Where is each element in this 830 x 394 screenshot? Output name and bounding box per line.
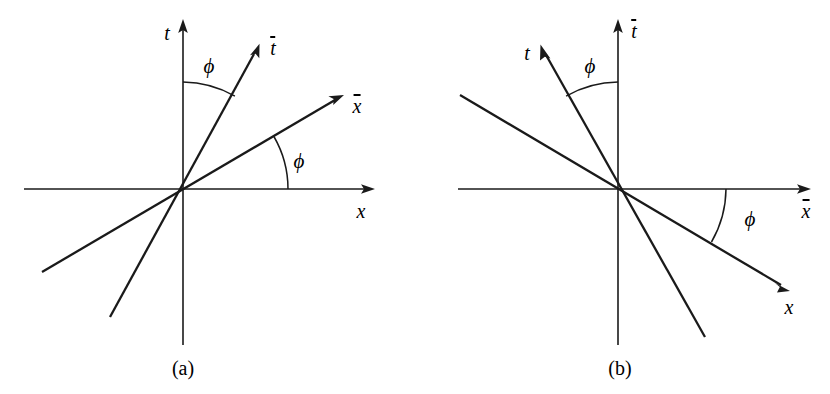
panel-b-caption: (b) [608,358,631,378]
panel-b-lower-angle-arc [712,189,727,242]
panel-a-t-bar-axis-label: t [270,38,276,58]
panel-b-x-bar-axis-label-text: x [802,200,811,222]
panel-a-lower-angle-label: ϕ [294,151,305,172]
figure-root: t x t x ϕ ϕ (a) t x t x ϕ ϕ (b) [0,0,830,394]
panel-a-t-axis-label: t [164,23,170,43]
panel-b-t-line [546,55,705,337]
panel-a-x-bar-axis-label: x [353,96,362,116]
panel-b-upper-angle-label: ϕ [585,56,596,77]
panel-a-t-bar-axis-label-text: t [270,37,276,59]
panel-a-t-bar-arrowhead [250,44,260,58]
panel-b-t-bar-axis-label: t [631,21,637,41]
diagram-canvas [0,0,830,394]
panel-b-x-bar-axis-label: x [802,201,811,221]
panel-b-x-arrowhead [775,283,790,293]
panel-b-t-bar-axis-label-text: t [631,20,637,42]
panel-b-x-line [460,95,781,285]
panel-b-upper-angle-arc [566,82,618,96]
panel-b-lower-angle-label: ϕ [745,209,756,230]
panel-a-x-bar-line [42,100,335,272]
panel-a-upper-angle-label: ϕ [204,56,215,77]
panel-b-x-axis-label: x [785,297,794,317]
panel-a-lower-angle-arc [274,137,288,190]
panel-a-upper-angle-arc [183,82,235,96]
panel-b-graphics [458,19,811,345]
panel-a-graphics [24,19,375,345]
panel-a-t-bar-line [110,54,254,317]
panel-a-x-bar-axis-label-text: x [353,95,362,117]
panel-b-t-axis-label: t [524,43,530,63]
panel-a-caption: (a) [172,358,194,378]
panel-a-x-axis-label: x [357,201,366,221]
